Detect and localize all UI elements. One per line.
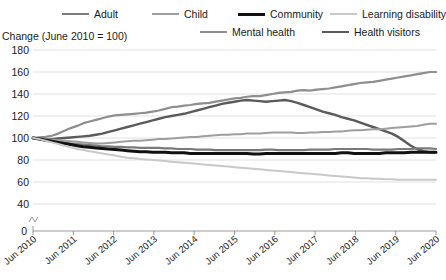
- x-tick-label: Jun 2017: [283, 233, 320, 267]
- y-tick-label: 40: [17, 198, 29, 210]
- legend-item-learning-disability[interactable]: Learning disability: [330, 5, 446, 23]
- legend-swatch-icon: [330, 13, 357, 15]
- legend-swatch-icon: [152, 13, 179, 15]
- legend-item-community[interactable]: Community: [238, 5, 323, 23]
- legend-row-1: AdultChildCommunityLearning disability: [0, 5, 441, 23]
- x-tick-label: Jun 2010: [1, 233, 38, 267]
- plot-area: 1801601401201008060400 Jun 2010Jun 2011J…: [0, 44, 441, 280]
- x-tick-label: Jun 2015: [203, 233, 240, 267]
- legend-label: Health visitors: [354, 26, 420, 38]
- legend-item-child[interactable]: Child: [152, 5, 208, 23]
- legend-item-health-visitors[interactable]: Health visitors: [322, 23, 420, 41]
- x-tick-label: Jun 2018: [324, 233, 361, 267]
- x-tick-label: Jun 2014: [162, 233, 199, 267]
- x-tick-label: Jun 2012: [82, 233, 119, 267]
- chart-svg: 1801601401201008060400 Jun 2010Jun 2011J…: [0, 44, 441, 280]
- y-tick-label: 100: [11, 132, 29, 144]
- legend-swatch-icon: [200, 31, 227, 33]
- y-tick-label: 180: [11, 44, 29, 56]
- x-tick-label: Jun 2019: [364, 233, 401, 267]
- legend-label: Child: [184, 8, 208, 20]
- legend-label: Mental health: [232, 26, 295, 38]
- legend-label: Adult: [94, 8, 118, 20]
- figure-footnote: [2, 271, 439, 280]
- y-tick-labels: 1801601401201008060400: [11, 44, 29, 237]
- x-tick-label: Jun 2020: [404, 233, 441, 267]
- y-axis-caption: Change (June 2010 = 100): [2, 30, 127, 42]
- legend-item-mental-health[interactable]: Mental health: [200, 23, 295, 41]
- legend-swatch-icon: [62, 13, 89, 15]
- y-tick-label: 80: [17, 154, 29, 166]
- legend-swatch-icon: [238, 13, 265, 16]
- legend-label: Learning disability: [362, 8, 446, 20]
- x-tick-label: Jun 2013: [122, 233, 159, 267]
- y-tick-label: 120: [11, 110, 29, 122]
- y-tick-label: 160: [11, 66, 29, 78]
- legend-item-adult[interactable]: Adult: [62, 5, 118, 23]
- axes: [29, 217, 436, 235]
- x-tick-label: Jun 2016: [243, 233, 280, 267]
- axis-break-icon: [29, 217, 38, 222]
- y-tick-label: 140: [11, 88, 29, 100]
- data-series: [33, 72, 436, 180]
- x-tick-label: Jun 2011: [42, 233, 78, 266]
- legend-label: Community: [270, 8, 323, 20]
- x-tick-labels: Jun 2010Jun 2011Jun 2012Jun 2013Jun 2014…: [1, 233, 441, 267]
- legend-swatch-icon: [322, 31, 349, 33]
- y-tick-label: 60: [17, 176, 29, 188]
- y-tick-label: 0: [21, 225, 27, 237]
